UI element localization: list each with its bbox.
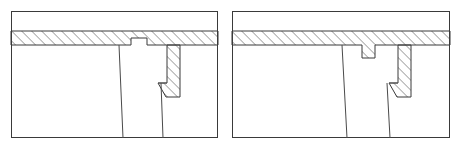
figure-root	[0, 0, 460, 148]
panel-left-frame	[12, 12, 218, 138]
panel-left-hatched-slab	[11, 31, 218, 45]
panel-left-drawing	[0, 0, 230, 148]
panel-right-frame	[233, 12, 450, 138]
panel-right-drawing	[230, 0, 460, 148]
